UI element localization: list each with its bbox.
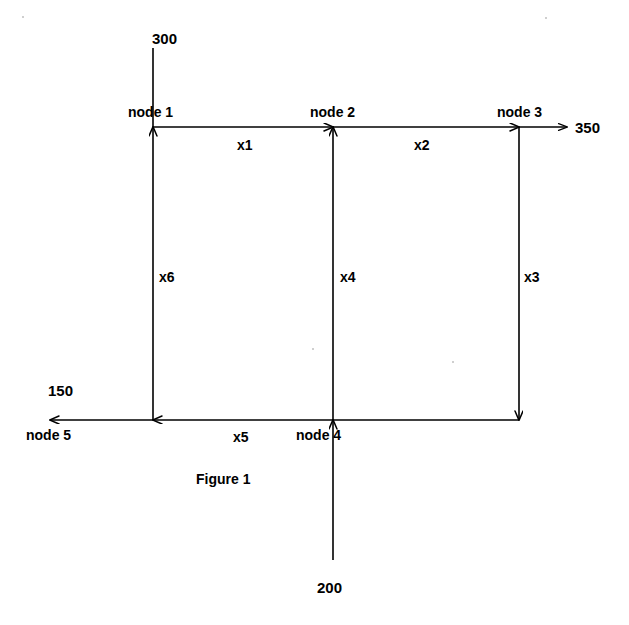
node-label-node4: node 4 [296,428,341,442]
edge-label-x1: x1 [237,138,253,152]
network-flow-graphic [0,0,629,625]
figure-caption: Figure 1 [196,472,250,486]
figure-1-network-diagram: node 1 node 2 node 3 node 4 node 5 x1 x2… [0,0,629,625]
scan-speck [545,17,547,19]
supply-label-300: 300 [152,31,177,46]
edge-label-x6: x6 [159,270,175,284]
edge-label-x5: x5 [233,430,249,444]
demand-label-350: 350 [575,120,600,135]
scan-speck [22,16,24,18]
edge-label-x3: x3 [524,270,540,284]
supply-label-200: 200 [317,580,342,595]
node-label-node5: node 5 [26,428,71,442]
edge-label-x4: x4 [340,270,356,284]
scan-speck [452,361,454,363]
scan-speck [312,348,314,350]
node-label-node1: node 1 [128,105,173,119]
edge-label-x2: x2 [414,138,430,152]
node-label-node3: node 3 [497,105,542,119]
node-label-node2: node 2 [310,105,355,119]
demand-label-150: 150 [48,383,73,398]
